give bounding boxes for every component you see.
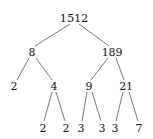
tree-edge — [92, 92, 101, 121]
tree-edge — [91, 58, 108, 80]
tree-edge — [44, 92, 52, 121]
tree-edge — [82, 92, 87, 121]
tree-edge — [129, 92, 138, 121]
factor-tree-figure: — ——— — — — — — — — 1512818924921223337 — [0, 0, 153, 139]
tree-edge — [116, 92, 123, 121]
tree-node-n9: 9 — [86, 81, 93, 92]
tree-node-n2c: 2 — [63, 123, 70, 134]
tree-edge — [17, 58, 29, 80]
tree-node-n7: 7 — [136, 123, 143, 134]
tree-node-n2b: 2 — [40, 123, 47, 134]
tree-node-n8: 8 — [29, 47, 36, 58]
tree-node-n189: 189 — [102, 47, 122, 58]
tree-node-n1512: 1512 — [60, 13, 88, 24]
tree-node-n3c: 3 — [112, 123, 119, 134]
tree-node-n4: 4 — [51, 81, 58, 92]
tree-edge — [36, 58, 52, 80]
tree-node-n3a: 3 — [78, 123, 85, 134]
tree-edge — [116, 58, 124, 80]
tree-node-n2a: 2 — [11, 81, 18, 92]
tree-node-n3b: 3 — [99, 123, 106, 134]
tree-edge — [35, 24, 70, 46]
tree-edge — [79, 24, 109, 46]
tree-node-n21: 21 — [119, 81, 133, 92]
tree-edge — [56, 92, 65, 121]
